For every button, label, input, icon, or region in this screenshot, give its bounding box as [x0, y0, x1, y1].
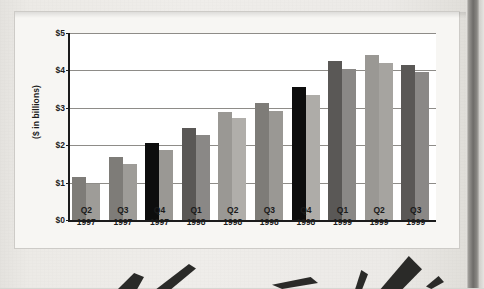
bar [379, 63, 393, 220]
bar [328, 61, 342, 220]
bar-group [399, 33, 436, 220]
x-axis-label: Q31999 [394, 204, 438, 228]
bar-chart: ($ in billions) $0$1$2$3$4$5 Q21997Q3199… [14, 11, 460, 249]
bar [292, 87, 306, 220]
bar [342, 69, 356, 220]
bar [255, 103, 269, 220]
y-axis-label: $4 [56, 65, 65, 75]
bar-group [143, 33, 180, 220]
bar-group [290, 33, 327, 220]
x-axis-label-quarter: Q3 [394, 204, 438, 216]
bar [365, 55, 379, 220]
y-axis-label: $1 [56, 178, 65, 188]
bar-group [70, 33, 107, 220]
y-axis-label: $2 [56, 140, 65, 150]
bar-group [216, 33, 253, 220]
y-axis-label: $3 [56, 103, 65, 113]
bar [415, 72, 429, 220]
bar-group [180, 33, 217, 220]
bar [306, 95, 320, 220]
bar-group [253, 33, 290, 220]
page-edge [479, 0, 484, 288]
y-axis-label: $5 [56, 28, 65, 38]
bar-group [363, 33, 400, 220]
bar-group [326, 33, 363, 220]
page-gutter [466, 0, 479, 288]
plot-area: $0$1$2$3$4$5 [68, 33, 436, 222]
x-axis-label-year: 1999 [394, 216, 438, 228]
y-axis-title: ($ in billions) [31, 52, 41, 172]
bar-group [107, 33, 144, 220]
bar [401, 65, 415, 220]
